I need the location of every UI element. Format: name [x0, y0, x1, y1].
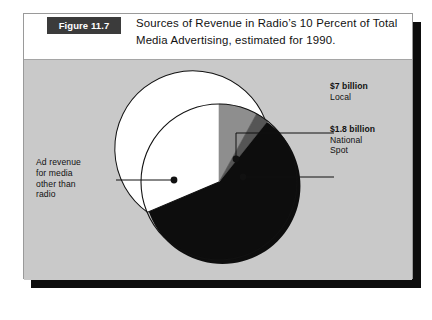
figure-number-badge: Figure 11.7	[47, 17, 121, 34]
callout-other-media-line-0: Ad revenue	[36, 157, 114, 168]
callout-other-media-line-2: other than	[36, 179, 114, 190]
callout-local: $7 billion Local	[330, 81, 412, 102]
callout-national-spot-line-0: National	[330, 135, 412, 146]
callout-national-spot-amount: $1.8 billion	[330, 124, 412, 135]
callout-national-spot-line-1: Spot	[330, 145, 412, 156]
figure-title: Sources of Revenue in Radio’s 10 Percent…	[136, 15, 404, 48]
figure-frame: Figure 11.7 Sources of Revenue in Radio’…	[23, 13, 413, 279]
callout-local-amount: $7 billion	[330, 81, 412, 92]
chart-area: $7 billion Local $1.8 billion National S…	[24, 59, 412, 280]
figure-title-band: Figure 11.7 Sources of Revenue in Radio’…	[24, 14, 412, 59]
callout-other-media-line-1: for media	[36, 168, 114, 179]
callout-other-media-line-3: radio	[36, 189, 114, 200]
figure-number-label: Figure 11.7	[59, 21, 110, 31]
figure-container: Figure 11.7 Sources of Revenue in Radio’…	[0, 0, 432, 320]
callout-other-media: Ad revenue for media other than radio	[36, 157, 114, 200]
callout-national-spot: $1.8 billion National Spot	[330, 124, 412, 156]
callout-local-line-0: Local	[330, 92, 412, 103]
